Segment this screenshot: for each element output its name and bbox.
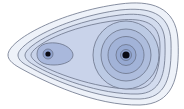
left-critical-point [45,51,50,56]
contour-diagram [0,0,184,109]
contour-svg [0,0,184,109]
right-critical-point [122,51,129,58]
